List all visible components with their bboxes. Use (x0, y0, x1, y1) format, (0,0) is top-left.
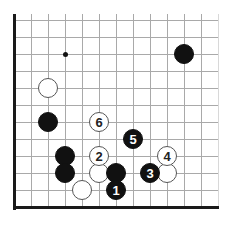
grid-line-vertical (218, 14, 219, 207)
white-stone-move-2[interactable]: 2 (89, 146, 109, 166)
black-stone-b[interactable] (174, 44, 194, 64)
stone-move-number: 6 (95, 115, 102, 128)
stone-move-number: 2 (95, 149, 102, 162)
black-stone-move-5[interactable]: 5 (123, 129, 143, 149)
grid-line-vertical (82, 14, 83, 207)
grid-line-horizontal (14, 37, 218, 38)
white-stone-d[interactable] (72, 180, 92, 200)
stone-move-number: 4 (163, 149, 170, 162)
white-stone-move-4[interactable]: 4 (157, 146, 177, 166)
grid-line-horizontal (14, 156, 218, 157)
go-board-diagram: 652431 (0, 0, 238, 233)
grid-line-horizontal (14, 20, 218, 21)
board-edge-bottom (13, 206, 219, 209)
black-stone-move-1[interactable]: 1 (106, 180, 126, 200)
grid-line-horizontal (14, 105, 218, 106)
stone-move-number: 1 (112, 183, 119, 196)
board-edge-left (13, 14, 16, 210)
grid-line-vertical (31, 14, 32, 207)
grid-line-vertical (48, 14, 49, 207)
black-stone-a[interactable] (38, 112, 58, 132)
white-stone-a[interactable] (38, 78, 58, 98)
star-point-upper-left (63, 52, 68, 57)
white-stone-move-6[interactable]: 6 (89, 112, 109, 132)
stone-move-number: 3 (146, 166, 153, 179)
black-stone-d[interactable] (55, 163, 75, 183)
grid-line-horizontal (14, 71, 218, 72)
grid-line-vertical (201, 14, 202, 207)
stone-move-number: 5 (129, 132, 136, 145)
white-stone-c[interactable] (157, 163, 177, 183)
grid-line-horizontal (14, 139, 218, 140)
black-stone-move-3[interactable]: 3 (140, 163, 160, 183)
grid-line-vertical (133, 14, 134, 207)
grid-line-vertical (184, 14, 185, 207)
